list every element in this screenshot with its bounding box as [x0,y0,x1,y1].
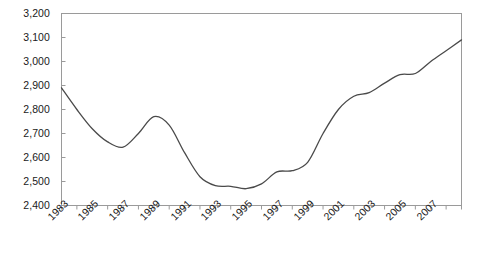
line-chart-plot [0,0,478,263]
y-axis-tick-label: 2,400 [6,199,50,211]
y-axis-tick-label: 2,800 [6,103,50,115]
y-axis-tick-label: 3,000 [6,55,50,67]
plot-frame [62,14,462,206]
y-axis-tick-label: 2,600 [6,151,50,163]
y-axis-tick-marks [62,14,66,206]
y-axis-tick-label: 3,100 [6,31,50,43]
y-axis-tick-label: 2,500 [6,175,50,187]
data-series-line [62,40,462,189]
y-axis-tick-label: 3,200 [6,7,50,19]
y-axis-tick-label: 2,900 [6,79,50,91]
y-axis-tick-label: 2,700 [6,127,50,139]
chart-container: 3,2003,1003,0002,9002,8002,7002,6002,500… [0,0,478,263]
